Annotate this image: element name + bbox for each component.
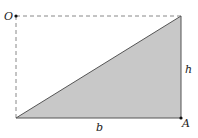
label-o: O	[4, 10, 13, 23]
label-h: h	[185, 63, 192, 76]
label-a: A	[181, 117, 190, 130]
triangle-diagram: O h b A	[0, 0, 198, 138]
point-o-dot	[14, 14, 17, 17]
shaded-triangle	[16, 16, 181, 118]
label-b: b	[96, 121, 103, 134]
